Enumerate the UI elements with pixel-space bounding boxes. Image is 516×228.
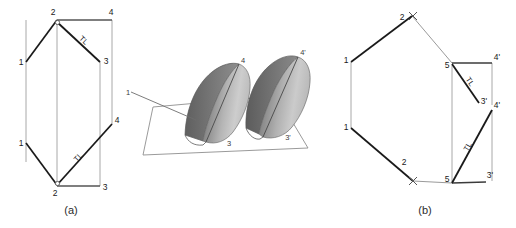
label-b-vertex-4prime-lower: 4' — [494, 100, 501, 110]
label-b-vertex-4prime-upper: 4' — [494, 52, 501, 62]
label-pictorial-1: 1 — [126, 88, 130, 97]
caption-a: (a) — [64, 204, 77, 216]
label-b-vertex-5-lower: 5 — [445, 174, 450, 184]
label-a-vertex-4-mid: 4 — [115, 115, 120, 125]
label-a-vertex-1-upper: 1 — [19, 57, 24, 67]
label-a-vertex-2-bottom: 2 — [53, 188, 58, 198]
label-b-vertex-2-bottom: 2 — [402, 157, 407, 167]
vertex-marker-a-2-upper — [55, 20, 59, 24]
vertex-marker-a-2-lower — [55, 181, 59, 185]
descriptive-geometry-figure: 2 4 1 3 4 1 2 3 TL TL (a) 1 4 3 4' 3' — [0, 0, 516, 228]
label-a-vertex-3-upper: 3 — [104, 56, 109, 66]
label-b-vertex-2-top: 2 — [400, 12, 405, 22]
label-pictorial-4: 4 — [241, 56, 245, 65]
label-b-vertex-5-upper: 5 — [445, 60, 450, 70]
label-pictorial-3: 3 — [227, 139, 231, 148]
caption-b: (b) — [418, 204, 431, 216]
label-pictorial-4-prime: 4' — [300, 48, 306, 57]
label-b-vertex-1-lower: 1 — [344, 122, 349, 132]
edge-b-5-3prime-lower — [452, 182, 486, 183]
label-a-vertex-2-top: 2 — [51, 7, 56, 17]
label-b-vertex-3prime-lower: 3' — [487, 170, 494, 180]
label-pictorial-3-prime: 3' — [285, 133, 291, 142]
label-b-vertex-3prime-upper: 3' — [481, 96, 488, 106]
label-a-vertex-4-top: 4 — [109, 7, 114, 17]
label-b-vertex-1-upper: 1 — [344, 55, 349, 65]
label-a-vertex-3-bottom: 3 — [103, 182, 108, 192]
label-a-vertex-1-lower: 1 — [19, 138, 24, 148]
